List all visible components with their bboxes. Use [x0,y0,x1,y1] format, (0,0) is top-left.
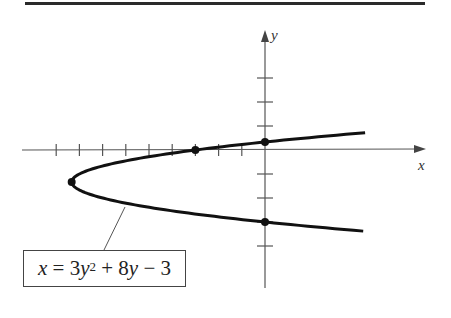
equation-label-box: x = 3 y 2 + 8 y − 3 [23,250,186,287]
equation-var-y2: y [129,256,138,281]
curve-group [72,133,365,231]
x-axis-arrow [414,145,426,153]
points [68,138,269,226]
equation-equals: = [47,256,69,281]
parabola-curve [72,133,365,231]
point-y-intercept-upper [261,138,269,146]
equation-term-c: − 3 [138,256,171,281]
point-x-intercept [191,146,199,154]
x-axis-label: x [417,157,425,173]
x-axis-line [22,149,420,150]
equation-term-b: + 8 [96,256,129,281]
equation-exponent: 2 [89,259,96,275]
equation-leader-line [104,207,125,250]
equation-lhs: x [38,256,47,281]
y-axis-label: y [269,27,278,43]
equation-coef-a: 3 [70,256,81,281]
point-vertex [68,178,76,186]
y-axis-arrow [261,30,269,42]
equation-var-y1: y [80,256,89,281]
point-y-intercept-lower [261,218,269,226]
